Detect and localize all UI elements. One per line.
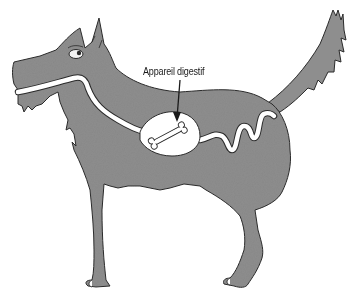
digestive-system-label: Appareil digestif <box>143 65 204 77</box>
dog-body <box>13 18 291 287</box>
dog-illustration <box>0 0 354 302</box>
dog-digestive-diagram: Appareil digestif <box>0 0 354 302</box>
tail <box>268 10 346 112</box>
pupil <box>77 51 81 55</box>
